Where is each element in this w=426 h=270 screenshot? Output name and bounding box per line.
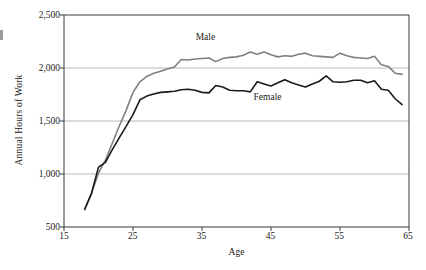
y-tick-label: 500 <box>46 222 60 232</box>
y-tick-label: 1,500 <box>39 116 60 126</box>
series-label-male: Male <box>196 32 216 42</box>
series-line-male <box>85 52 402 209</box>
x-tick-label: 45 <box>266 231 276 241</box>
x-tick-label: 65 <box>403 231 413 241</box>
y-tick-label: 2,000 <box>39 63 60 73</box>
x-axis-title: Age <box>64 247 409 257</box>
page-edge-artifact <box>0 30 3 40</box>
chart-figure: Annual Hours of Work 2,500 2,000 1,500 1… <box>0 0 426 270</box>
y-tick-label: 2,500 <box>39 10 60 20</box>
x-tick-label: 15 <box>59 231 69 241</box>
series-label-female: Female <box>254 92 282 102</box>
x-tick-label: 25 <box>128 231 138 241</box>
y-tick-labels: 2,500 2,000 1,500 1,000 500 <box>22 0 60 240</box>
x-tick-label: 35 <box>197 231 207 241</box>
y-tick-label: 1,000 <box>39 169 60 179</box>
x-tick-label: 55 <box>334 231 344 241</box>
